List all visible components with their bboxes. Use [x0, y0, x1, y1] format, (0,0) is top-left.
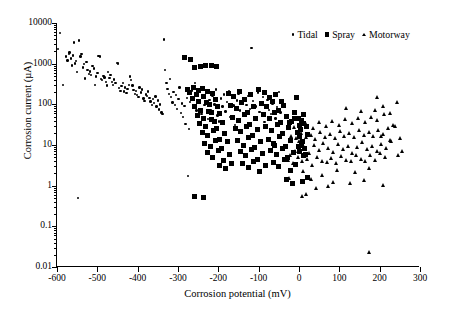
data-point-tidal [148, 97, 150, 99]
data-point-spray [208, 144, 213, 149]
data-point-motorway [388, 111, 392, 115]
data-point-motorway [323, 135, 327, 139]
data-point-tidal [187, 175, 189, 177]
data-point-spray [190, 96, 195, 101]
data-point-motorway [379, 142, 383, 146]
data-point-tidal [224, 110, 226, 112]
data-point-spray [200, 130, 205, 135]
data-point-motorway [369, 115, 373, 119]
data-point-motorway [365, 147, 369, 151]
data-point-tidal [183, 105, 185, 107]
data-point-motorway [329, 156, 333, 160]
data-point-motorway [352, 135, 356, 139]
data-point-spray [203, 63, 208, 68]
data-point-spray [235, 138, 240, 143]
data-point-motorway [305, 157, 309, 161]
data-point-tidal [157, 99, 159, 101]
data-point-spray [228, 103, 233, 108]
data-point-tidal [108, 77, 110, 79]
data-point-spray [241, 143, 246, 148]
data-point-motorway [331, 180, 335, 184]
data-point-motorway [373, 108, 377, 112]
dot-marker-icon [292, 33, 294, 35]
data-point-tidal [112, 84, 114, 86]
data-point-motorway [354, 153, 358, 157]
data-point-tidal [120, 85, 122, 87]
data-point-motorway [379, 134, 383, 138]
square-marker-icon [325, 32, 329, 36]
data-point-spray [256, 87, 261, 92]
data-point-spray [230, 115, 235, 120]
data-point-tidal [68, 51, 70, 53]
data-point-spray [213, 138, 218, 143]
x-tick [339, 267, 340, 272]
data-point-motorway [317, 148, 321, 152]
data-point-spray [234, 106, 239, 111]
data-point-spray [244, 124, 249, 129]
data-point-spray [266, 137, 271, 142]
data-point-spray [257, 169, 262, 174]
x-tick [299, 267, 300, 272]
data-point-spray [268, 148, 273, 153]
data-point-spray [288, 138, 293, 143]
data-point-tidal [152, 98, 154, 100]
y-tick-label: 10000 [28, 18, 52, 28]
data-point-tidal [131, 84, 133, 86]
y-tick-label: 100 [38, 99, 52, 109]
plot-area: -600-500-400-300-200-1000100200300 [56, 23, 419, 267]
data-point-spray [290, 181, 295, 186]
x-tick-label: 300 [413, 274, 427, 284]
x-tick-label: -400 [129, 274, 146, 284]
data-point-motorway [393, 124, 397, 128]
data-point-spray [258, 139, 263, 144]
data-point-tidal [57, 48, 59, 50]
data-point-tidal [119, 90, 121, 92]
data-point-tidal [129, 75, 131, 77]
data-point-spray [198, 64, 203, 69]
x-tick-label: -600 [48, 274, 65, 284]
data-point-motorway [344, 158, 348, 162]
data-point-spray [270, 99, 275, 104]
data-point-motorway [363, 120, 367, 124]
data-point-tidal [106, 84, 108, 86]
data-point-motorway [371, 134, 375, 138]
data-point-motorway [333, 136, 337, 140]
data-point-motorway [334, 161, 338, 165]
data-point-spray [213, 97, 218, 102]
data-point-spray [217, 111, 222, 116]
data-point-spray [288, 168, 293, 173]
data-point-motorway [312, 143, 316, 147]
data-point-tidal [114, 82, 116, 84]
data-point-tidal [154, 95, 156, 97]
data-point-spray [220, 120, 225, 125]
data-point-motorway [376, 128, 380, 132]
data-point-spray [269, 128, 274, 133]
data-point-spray [201, 94, 206, 99]
legend-label: Spray [332, 29, 355, 40]
data-point-spray [262, 90, 267, 95]
triangle-marker-icon [362, 33, 366, 36]
data-point-motorway [283, 144, 287, 148]
data-point-spray [201, 116, 206, 121]
data-point-motorway [400, 149, 404, 153]
data-point-tidal [65, 55, 67, 57]
data-point-tidal [76, 71, 78, 73]
data-point-tidal [93, 67, 95, 69]
x-tick [380, 267, 381, 272]
chart-legend: TidalSprayMotorway [292, 29, 410, 40]
data-point-tidal [126, 88, 128, 90]
data-point-tidal [186, 97, 188, 99]
y-tick-label: 0.1 [40, 221, 52, 231]
data-point-tidal [79, 55, 81, 57]
data-point-tidal [263, 121, 265, 123]
data-point-motorway [350, 121, 354, 125]
data-point-spray [222, 131, 227, 136]
data-point-spray [243, 153, 248, 158]
data-point-tidal [141, 88, 143, 90]
data-point-spray [215, 104, 220, 109]
data-point-motorway [367, 166, 371, 170]
data-point-motorway [368, 153, 372, 157]
data-point-spray [238, 129, 243, 134]
data-point-motorway [359, 157, 363, 161]
data-point-motorway [304, 135, 308, 139]
